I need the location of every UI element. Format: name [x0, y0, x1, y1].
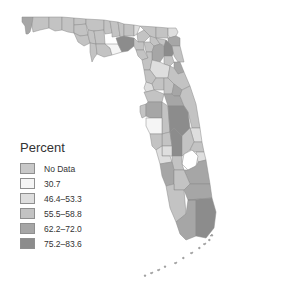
county-hillsborough: [146, 102, 162, 118]
legend-swatch: [20, 238, 35, 249]
legend-swatch: [20, 208, 35, 219]
legend-label: 30.7: [44, 179, 61, 189]
county-jackson: [86, 19, 104, 31]
florida-keys: [144, 234, 213, 277]
county-pinellas: [140, 104, 146, 118]
legend-label: No Data: [44, 164, 75, 174]
county-madison: [124, 24, 134, 36]
legend-swatch: [20, 163, 35, 174]
county-glades: [172, 156, 184, 170]
legend-item-class-2: 46.4–53.3: [20, 191, 82, 206]
county-pasco: [144, 90, 164, 102]
county-okaloosa: [49, 17, 62, 31]
county-baker: [156, 27, 168, 38]
county-desoto: [162, 146, 172, 156]
county-manatee: [146, 118, 162, 134]
county-escambia: [22, 17, 33, 34]
legend-item-class-5: 75.2–83.6: [20, 236, 82, 251]
legend-item-class-1: 30.7: [20, 176, 82, 191]
legend-item-class-3: 55.5–58.8: [20, 206, 82, 221]
legend-swatch: [20, 223, 35, 234]
legend-label: 75.2–83.6: [44, 239, 82, 249]
legend-label: 46.4–53.3: [44, 194, 82, 204]
county-lee: [160, 162, 174, 186]
county-liberty: [94, 30, 105, 44]
county-santa-rosa: [32, 17, 49, 32]
legend-item-no-data: No Data: [20, 161, 82, 176]
county-walton: [62, 17, 74, 33]
county-alachua: [152, 44, 164, 62]
county-st-johns: [172, 46, 184, 62]
legend-label: 62.2–72.0: [44, 224, 82, 234]
legend-title: Percent: [20, 140, 82, 155]
legend-swatch: [20, 178, 35, 189]
legend-label: 55.5–58.8: [44, 209, 82, 219]
county-broward: [184, 184, 212, 200]
map-legend: Percent No Data 30.7 46.4–53.3 55.5–58.8…: [20, 140, 82, 251]
legend-swatch: [20, 193, 35, 204]
legend-item-class-4: 62.2–72.0: [20, 221, 82, 236]
